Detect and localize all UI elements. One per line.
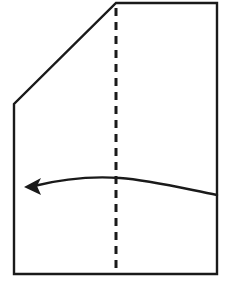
fold-diagram-canvas <box>0 0 228 283</box>
fold-diagram-container <box>0 0 228 283</box>
